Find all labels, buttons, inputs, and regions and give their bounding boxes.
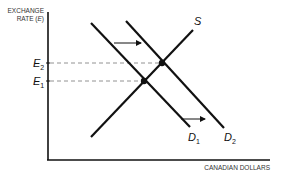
y-axis-label-line2: RATE (E) [17,15,44,23]
supply-curve-s [91,30,193,137]
curve-label-d1: D1 [188,131,200,145]
y-axis-label-line1: EXCHANGE [8,7,45,14]
curve-label-d2: D2 [224,131,236,145]
level-e1-label: E1 [33,75,44,89]
equilibrium-point-e1 [141,78,147,84]
level-e2-label: E2 [33,57,44,71]
supply-demand-diagram: EXCHANGE RATE (E) CANADIAN DOLLARS E2 E1… [0,0,281,179]
x-axis-label: CANADIAN DOLLARS [204,164,270,171]
curve-label-s: S [194,15,202,27]
equilibrium-point-e2 [159,60,165,66]
